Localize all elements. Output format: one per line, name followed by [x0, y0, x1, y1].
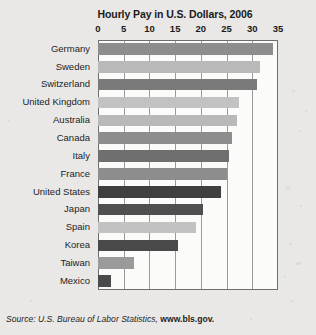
- bar-korea: [98, 240, 178, 252]
- category-label-sweden: Sweden: [0, 61, 94, 72]
- x-tick-label-30: 30: [247, 23, 258, 34]
- bar-row: [98, 275, 278, 287]
- bar-row: [98, 132, 278, 144]
- bar-australia: [98, 115, 237, 127]
- x-tick-label-0: 0: [95, 23, 100, 34]
- bar-united-kingdom: [98, 97, 239, 109]
- category-label-spain: Spain: [0, 221, 94, 232]
- bar-canada: [98, 132, 232, 144]
- x-tick-label-15: 15: [170, 23, 181, 34]
- paper-speck: [299, 130, 301, 132]
- x-tick-label-5: 5: [121, 23, 126, 34]
- bar-chart-figure: Hourly Pay in U.S. Dollars, 2006 0510152…: [0, 0, 316, 335]
- bar-row: [98, 257, 278, 269]
- paper-speck: [305, 110, 307, 112]
- bar-japan: [98, 204, 203, 216]
- paper-speck: [289, 243, 292, 245]
- bars-container: [98, 40, 278, 290]
- category-label-switzerland: Switzerland: [0, 78, 94, 89]
- bar-united-states: [98, 186, 221, 198]
- x-tick-label-20: 20: [196, 23, 207, 34]
- bar-italy: [98, 150, 229, 162]
- bar-row: [98, 150, 278, 162]
- source-website: www.bls.gov.: [160, 314, 214, 324]
- category-label-france: France: [0, 168, 94, 179]
- bar-row: [98, 168, 278, 180]
- category-label-korea: Korea: [0, 239, 94, 250]
- x-axis-tick-labels: 05101520253035: [98, 23, 278, 36]
- bar-row: [98, 97, 278, 109]
- bar-sweden: [98, 61, 260, 73]
- category-label-italy: Italy: [0, 150, 94, 161]
- paper-speck: [30, 300, 32, 302]
- bar-switzerland: [98, 79, 257, 91]
- x-tick-label-10: 10: [144, 23, 155, 34]
- bar-france: [98, 168, 227, 180]
- paper-speck: [284, 276, 286, 278]
- bar-row: [98, 115, 278, 127]
- paper-speck: [296, 262, 301, 265]
- paper-speck: [250, 318, 252, 320]
- category-labels: GermanySwedenSwitzerlandUnited KingdomAu…: [0, 40, 94, 290]
- bar-row: [98, 79, 278, 91]
- x-tick-label-25: 25: [221, 23, 232, 34]
- paper-speck: [300, 205, 302, 207]
- category-label-australia: Australia: [0, 114, 94, 125]
- bar-row: [98, 186, 278, 198]
- category-label-united-kingdom: United Kingdom: [0, 96, 94, 107]
- x-tick-label-35: 35: [273, 23, 284, 34]
- bar-row: [98, 204, 278, 216]
- source-note: Source: U.S. Bureau of Labor Statistics,…: [6, 314, 214, 324]
- bar-row: [98, 43, 278, 55]
- category-label-germany: Germany: [0, 43, 94, 54]
- bar-row: [98, 222, 278, 234]
- bar-spain: [98, 222, 196, 234]
- paper-speck: [292, 90, 295, 92]
- bar-germany: [98, 43, 273, 55]
- category-label-united-states: United States: [0, 186, 94, 197]
- paper-speck: [8, 120, 10, 122]
- category-label-canada: Canada: [0, 132, 94, 143]
- bar-row: [98, 240, 278, 252]
- category-label-mexico: Mexico: [0, 275, 94, 286]
- source-prefix: Source: U.S. Bureau of Labor Statistics,: [6, 314, 160, 324]
- chart-title: Hourly Pay in U.S. Dollars, 2006: [60, 8, 290, 20]
- bar-row: [98, 61, 278, 73]
- bar-taiwan: [98, 257, 134, 269]
- bar-mexico: [98, 275, 111, 287]
- category-label-taiwan: Taiwan: [0, 257, 94, 268]
- paper-speck: [286, 186, 290, 189]
- paper-speck: [291, 300, 294, 302]
- category-label-japan: Japan: [0, 203, 94, 214]
